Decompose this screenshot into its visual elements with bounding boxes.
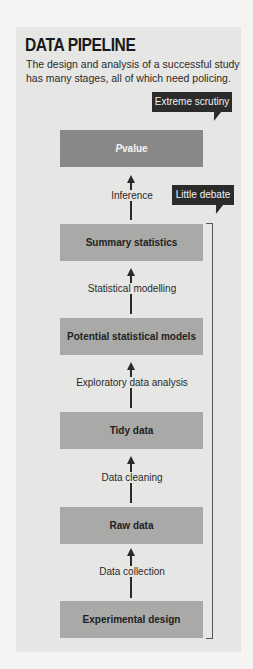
p-value-label: value [122,143,148,154]
little-debate-tag: Little debate [172,185,234,205]
stage-potential-statistical-models: Potential statistical models [60,318,203,355]
stage-summary-statistics: Summary statistics [60,224,203,261]
diagram-subtitle: The design and analysis of a successful … [26,57,241,85]
stage-experimental-design: Experimental design [60,601,203,638]
p-value-box: P value [60,130,203,167]
step-statistical-modelling: Statistical modelling [80,283,184,294]
little-debate-label: Little debate [176,189,231,200]
stage-raw-data: Raw data [60,507,203,544]
step-data-collection: Data collection [92,566,172,577]
little-debate-bracket [206,223,213,639]
p-italic: P [115,143,122,154]
extreme-scrutiny-tag: Extreme scrutiny [152,92,232,112]
step-inference: Inference [90,190,174,201]
stage-tidy-data: Tidy data [60,412,203,449]
step-data-cleaning: Data cleaning [95,472,169,483]
step-exploratory-data-analysis: Exploratory data analysis [70,377,194,388]
extreme-scrutiny-label: Extreme scrutiny [155,96,229,107]
diagram-title: DATA PIPELINE [25,34,135,56]
